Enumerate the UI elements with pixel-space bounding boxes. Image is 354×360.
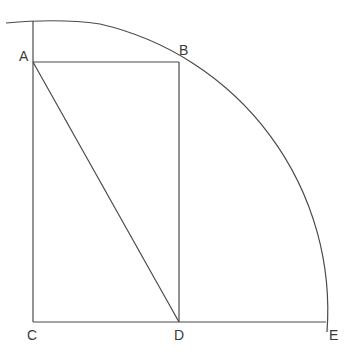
diagram-canvas: A B C D E <box>0 0 354 360</box>
point-label-a: A <box>19 48 29 64</box>
geometry-figure: A B C D E <box>0 0 354 360</box>
quarter-circle-arc <box>6 21 328 332</box>
segment-ad <box>33 62 179 322</box>
point-label-b: B <box>179 42 188 58</box>
point-label-e: E <box>329 327 338 343</box>
point-label-d: D <box>174 327 184 343</box>
point-label-c: C <box>27 327 37 343</box>
